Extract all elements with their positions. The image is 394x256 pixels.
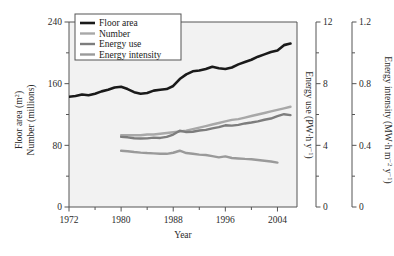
x-axis-tick-label: 1980 (112, 215, 131, 225)
left-axis-title-line1: Floor area (m2) (13, 91, 25, 149)
x-axis-title: Year (174, 230, 192, 240)
right-axis-1-tick-label: 0 (323, 202, 328, 212)
right-axis-1-tick-label: 4 (323, 141, 328, 151)
left-axis-tick-label: 160 (48, 79, 63, 89)
right-axis-2-tick-label: 0.4 (359, 141, 371, 151)
right-axis-1-title: Energy use (PW·h y−1) (303, 71, 315, 158)
legend-label-energy-intensity: Energy intensity (99, 50, 162, 60)
left-axis-tick-label: 0 (57, 202, 62, 212)
x-axis-tick-label: 1996 (216, 215, 235, 225)
x-axis-tick-label: 1972 (60, 215, 79, 225)
right-axis-2-tick-label: 1.2 (359, 17, 371, 27)
right-axis-2-title: Energy intensity (MW·h m−2 y−1) (382, 56, 394, 183)
right-axis-2-tick-label: 0 (359, 202, 364, 212)
right-axis-2-tick-label: 0.8 (359, 79, 371, 89)
left-axis-title-line2: Number (millions) (26, 85, 37, 156)
chart-canvas: 080160240Floor area (m2)Number (millions… (0, 0, 394, 256)
legend-label-floor-area: Floor area (99, 18, 139, 28)
right-axis-1-tick-label: 8 (323, 79, 328, 89)
x-axis-tick-label: 2004 (268, 215, 287, 225)
left-axis-tick-label: 240 (48, 17, 63, 27)
legend-label-energy-use: Energy use (99, 39, 141, 49)
chart-figure: 080160240Floor area (m2)Number (millions… (0, 0, 394, 256)
right-axis-1-tick-label: 12 (323, 17, 333, 27)
legend-label-number: Number (99, 29, 131, 39)
left-axis-tick-label: 80 (53, 141, 63, 151)
x-axis-tick-label: 1988 (164, 215, 183, 225)
